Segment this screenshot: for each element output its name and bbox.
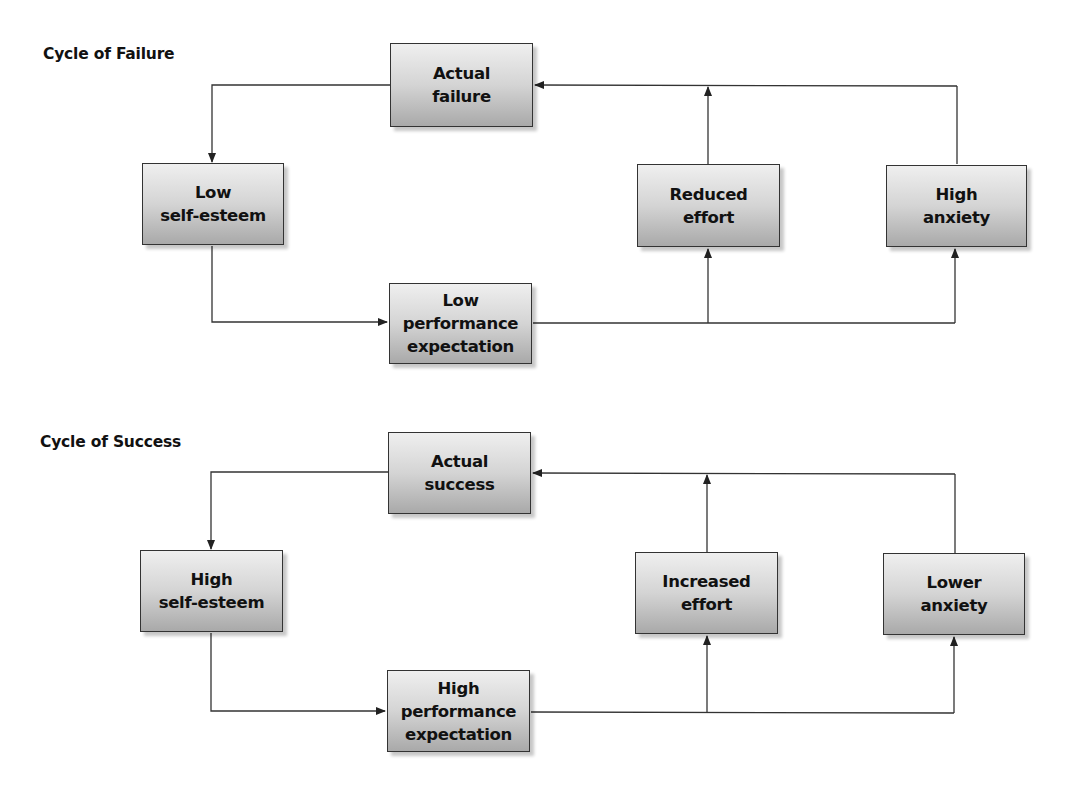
node-label: High anxiety <box>923 183 990 229</box>
cycle-of-success-title: Cycle of Success <box>40 433 181 451</box>
line-expectation-to-right-s <box>531 712 954 713</box>
connector-lines <box>0 0 1066 792</box>
node-high-anxiety: High anxiety <box>886 165 1027 247</box>
arrow-selfesteem-to-expectation <box>212 246 387 322</box>
node-label: Actual success <box>425 450 495 496</box>
node-label: Actual failure <box>432 62 491 108</box>
node-low-performance-expectation: Low performance expectation <box>389 283 532 364</box>
node-low-self-esteem: Low self-esteem <box>142 163 284 245</box>
arrow-to-actual <box>535 85 957 86</box>
arrow-selfesteem-to-expectation-s <box>211 633 385 711</box>
node-label: High self-esteem <box>159 568 265 614</box>
node-label: High performance expectation <box>401 677 517 746</box>
arrow-actual-to-selfesteem-s <box>211 472 388 549</box>
cycle-of-failure-title: Cycle of Failure <box>43 45 174 63</box>
node-label: Increased effort <box>662 570 750 616</box>
node-label: Low self-esteem <box>160 181 266 227</box>
node-increased-effort: Increased effort <box>635 552 778 634</box>
node-actual-failure: Actual failure <box>390 43 533 127</box>
node-high-self-esteem: High self-esteem <box>140 550 283 632</box>
node-label: Lower anxiety <box>921 571 988 617</box>
arrow-to-actual-s <box>533 473 955 474</box>
node-label: Low performance expectation <box>403 289 519 358</box>
arrow-actual-to-selfesteem <box>212 85 390 162</box>
node-lower-anxiety: Lower anxiety <box>883 553 1025 635</box>
node-label: Reduced effort <box>669 183 747 229</box>
node-reduced-effort: Reduced effort <box>637 164 780 247</box>
node-actual-success: Actual success <box>388 432 531 514</box>
node-high-performance-expectation: High performance expectation <box>387 670 530 752</box>
